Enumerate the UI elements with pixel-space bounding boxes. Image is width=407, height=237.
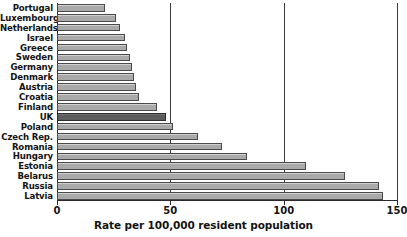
bar-greece xyxy=(57,44,127,52)
bar-row: Finland xyxy=(0,102,407,112)
bar-denmark xyxy=(57,73,134,81)
bar-row: Czech Rep. xyxy=(0,132,407,142)
bar-row: Russia xyxy=(0,181,407,191)
bar-label-netherlands: Netherlands xyxy=(0,23,53,32)
bar-netherlands xyxy=(57,24,120,32)
tick-label-50: 50 xyxy=(163,205,177,216)
bar-israel xyxy=(57,34,125,42)
bar-label-poland: Poland xyxy=(0,122,53,131)
bar-row: Netherlands xyxy=(0,23,407,33)
bar-poland xyxy=(57,123,173,131)
bar-label-romania: Romania xyxy=(0,142,53,151)
bar-luxembourg xyxy=(57,14,116,22)
bar-hungary xyxy=(57,153,247,161)
bar-row: Austria xyxy=(0,82,407,92)
bar-uk xyxy=(57,113,166,121)
x-axis-line xyxy=(57,200,398,201)
bar-row: Estonia xyxy=(0,161,407,171)
bar-row: Poland xyxy=(0,122,407,132)
tick-label-100: 100 xyxy=(273,205,294,216)
bar-row: Sweden xyxy=(0,53,407,63)
bar-row: Israel xyxy=(0,33,407,43)
bar-romania xyxy=(57,143,222,151)
bar-row: Germany xyxy=(0,62,407,72)
x-axis-title: Rate per 100,000 resident population xyxy=(0,219,407,231)
bar-germany xyxy=(57,63,132,71)
bar-russia xyxy=(57,182,379,190)
bar-row: Hungary xyxy=(0,152,407,162)
bar-label-hungary: Hungary xyxy=(0,152,53,161)
bar-label-finland: Finland xyxy=(0,102,53,111)
bar-portugal xyxy=(57,4,105,12)
bar-rows: PortugalLuxembourgNetherlandsIsraelGreec… xyxy=(0,3,407,201)
bar-latvia xyxy=(57,192,383,200)
bar-label-luxembourg: Luxembourg xyxy=(0,13,53,22)
bar-label-greece: Greece xyxy=(0,43,53,52)
bar-label-sweden: Sweden xyxy=(0,53,53,62)
bar-label-belarus: Belarus xyxy=(0,172,53,181)
bar-label-uk: UK xyxy=(0,112,53,121)
bar-label-germany: Germany xyxy=(0,63,53,72)
bar-label-israel: Israel xyxy=(0,33,53,42)
tick-label-150: 150 xyxy=(387,205,407,216)
bar-croatia xyxy=(57,93,139,101)
bar-label-portugal: Portugal xyxy=(0,3,53,12)
bar-row: Greece xyxy=(0,43,407,53)
bar-row: Belarus xyxy=(0,171,407,181)
bar-belarus xyxy=(57,172,345,180)
bar-estonia xyxy=(57,162,306,170)
bar-row: Denmark xyxy=(0,72,407,82)
bar-austria xyxy=(57,83,136,91)
bar-label-russia: Russia xyxy=(0,182,53,191)
bar-finland xyxy=(57,103,157,111)
bar-row: Romania xyxy=(0,142,407,152)
bar-row: Croatia xyxy=(0,92,407,102)
bar-chart: PortugalLuxembourgNetherlandsIsraelGreec… xyxy=(0,0,407,237)
bar-label-estonia: Estonia xyxy=(0,162,53,171)
bar-row: Portugal xyxy=(0,3,407,13)
bar-label-croatia: Croatia xyxy=(0,93,53,102)
bar-row: UK xyxy=(0,112,407,122)
bar-label-denmark: Denmark xyxy=(0,73,53,82)
bar-label-czech-rep: Czech Rep. xyxy=(0,132,53,141)
bar-row: Luxembourg xyxy=(0,13,407,23)
bar-label-latvia: Latvia xyxy=(0,192,53,201)
bar-sweden xyxy=(57,54,130,62)
bar-label-austria: Austria xyxy=(0,83,53,92)
tick-label-0: 0 xyxy=(54,205,61,216)
bar-czech-rep xyxy=(57,133,198,141)
